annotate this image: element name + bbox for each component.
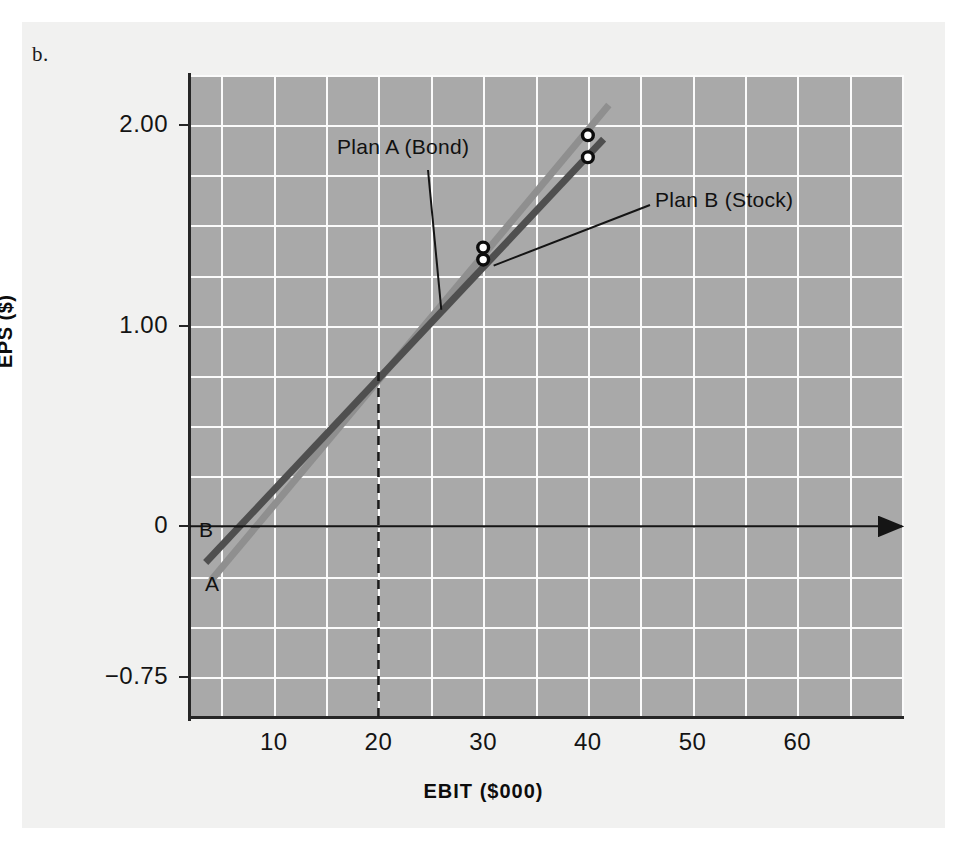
plot-area (190, 75, 902, 717)
y-axis-tick (179, 124, 189, 126)
annotation-label-plan-a: Plan A (Bond) (337, 135, 469, 159)
gridline-horizontal (190, 175, 902, 177)
gridline-vertical (483, 75, 485, 717)
gridline-vertical (221, 75, 223, 717)
y-axis-tick (179, 325, 189, 327)
gridline-horizontal (190, 376, 902, 378)
y-axis-line (188, 73, 191, 721)
gridline-vertical (850, 75, 852, 717)
y-axis-title: EPS ($) (0, 188, 17, 368)
part-label: b. (32, 42, 49, 67)
x-axis-tick-label: 20 (348, 728, 408, 756)
x-axis-tick-label: 30 (453, 728, 513, 756)
gridline-horizontal (190, 326, 902, 328)
gridline-horizontal (190, 476, 902, 478)
y-axis-tick-label: 2.00 (48, 110, 168, 138)
gridline-horizontal (190, 225, 902, 227)
gridline-horizontal (190, 75, 902, 77)
gridline-horizontal (190, 677, 902, 679)
gridline-vertical (588, 75, 590, 717)
x-axis-line (188, 716, 904, 719)
gridline-vertical (797, 75, 799, 717)
gridline-vertical (378, 75, 380, 717)
x-axis-tick-label: 60 (767, 728, 827, 756)
plot-background (190, 75, 902, 717)
gridline-horizontal (190, 577, 902, 579)
annotation-label-plan-b: Plan B (Stock) (655, 188, 793, 212)
figure-page: b. 2.001.000−0.75 102030405060 EPS ($) E… (0, 0, 967, 851)
gridline-vertical (745, 75, 747, 717)
gridline-horizontal (190, 276, 902, 278)
x-axis-tick-label: 40 (558, 728, 618, 756)
series-endpoint-label-a: A (205, 572, 219, 596)
gridline-horizontal (190, 526, 902, 528)
gridline-horizontal (190, 125, 902, 127)
gridline-horizontal (190, 627, 902, 629)
y-axis-tick-label: 0 (48, 511, 168, 539)
gridline-horizontal (190, 426, 902, 428)
y-axis-tick (179, 676, 189, 678)
gridline-vertical (902, 75, 904, 717)
series-endpoint-label-b: B (199, 518, 213, 542)
x-axis-title: EBIT ($000) (0, 780, 967, 803)
gridline-vertical (640, 75, 642, 717)
gridline-vertical (274, 75, 276, 717)
gridline-vertical (431, 75, 433, 717)
y-axis-tick-label: 1.00 (48, 311, 168, 339)
y-axis-tick-label: −0.75 (48, 662, 168, 690)
x-axis-tick-label: 50 (663, 728, 723, 756)
gridline-vertical (693, 75, 695, 717)
gridline-vertical (326, 75, 328, 717)
x-axis-tick-label: 10 (244, 728, 304, 756)
gridline-vertical (536, 75, 538, 717)
y-axis-tick (179, 525, 189, 527)
